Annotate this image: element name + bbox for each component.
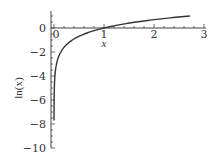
ln-curve bbox=[54, 16, 190, 120]
y-tick-label: −4 bbox=[30, 70, 46, 83]
y-tick-label: −6 bbox=[30, 94, 46, 107]
ln-plot: 01230−2−4−6−8−10 x ln(x) bbox=[0, 0, 213, 158]
x-tick-label: 2 bbox=[151, 28, 158, 41]
y-tick-label: −8 bbox=[30, 118, 46, 131]
ticks bbox=[51, 16, 204, 148]
y-tick-label: 0 bbox=[39, 22, 46, 35]
tick-labels: 01230−2−4−6−8−10 bbox=[23, 22, 208, 155]
y-tick-label: −10 bbox=[23, 142, 46, 155]
x-tick-label: 3 bbox=[201, 28, 208, 41]
y-axis-label: ln(x) bbox=[12, 77, 25, 99]
axes bbox=[51, 11, 206, 148]
x-axis-label: x bbox=[101, 37, 107, 49]
x-tick-label: 0 bbox=[53, 28, 60, 41]
y-tick-label: −2 bbox=[30, 46, 46, 59]
